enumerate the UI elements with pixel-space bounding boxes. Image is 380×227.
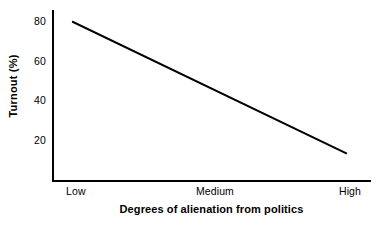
y-tick-label-40: 40 xyxy=(0,95,46,106)
y-tick-label-60: 60 xyxy=(0,56,46,67)
series-turnout-line xyxy=(52,10,371,181)
turnout-trend-line xyxy=(73,22,346,153)
x-tick-label-high: High xyxy=(339,185,361,197)
chart-figure: Turnout (%) 80 60 40 20 Low Medium High … xyxy=(0,0,380,227)
x-tick-label-medium: Medium xyxy=(196,185,234,197)
x-axis-title: Degrees of alienation from politics xyxy=(52,203,371,215)
y-tick-label-80: 80 xyxy=(0,16,46,27)
plot-area xyxy=(52,10,371,181)
x-tick-label-low: Low xyxy=(66,185,86,197)
y-tick-label-20: 20 xyxy=(0,135,46,146)
y-axis-tick-labels: 80 60 40 20 xyxy=(0,0,46,227)
